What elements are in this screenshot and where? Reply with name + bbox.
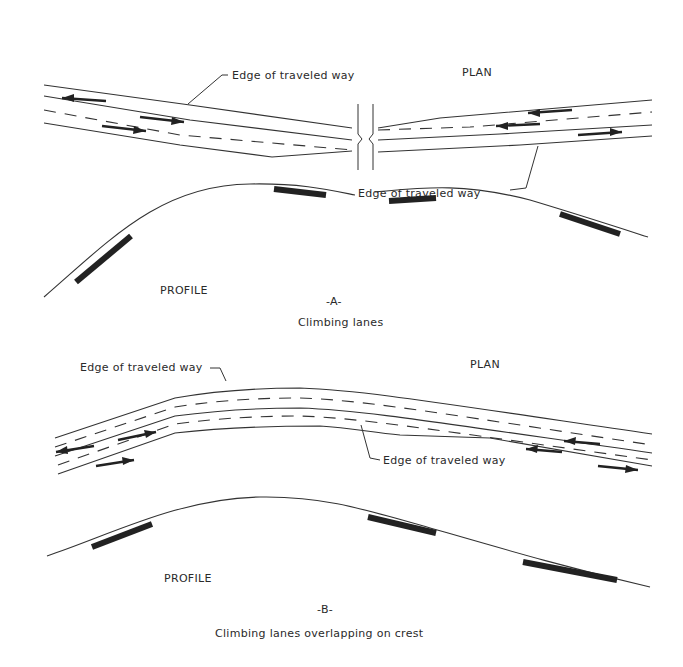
climbing-lanes-diagram: Edge of traveled way PLAN Edge of travel…: [0, 0, 683, 667]
leader-top-b: [210, 368, 226, 381]
edge-label-bottom-b: Edge of traveled way: [383, 454, 506, 467]
climbing-lane-hatch-b3: [523, 562, 617, 580]
edge-label-top-b: Edge of traveled way: [80, 361, 203, 374]
edge-label-top-a: Edge of traveled way: [232, 69, 355, 82]
caption-b: Climbing lanes overlapping on crest: [215, 627, 424, 640]
panel-id-a: -A-: [326, 295, 342, 308]
road-edge-top-left: [44, 85, 352, 128]
leader-top-a: [188, 75, 228, 104]
profile-curve-b: [47, 497, 650, 587]
plan-label-a: PLAN: [462, 66, 492, 79]
panel-id-b: -B-: [317, 603, 333, 616]
profile-curve-a-left: [44, 184, 355, 297]
leader-bottom-a: [510, 146, 538, 190]
plan-label-b: PLAN: [470, 358, 500, 371]
panel-a-profile: PROFILE -A- Climbing lanes: [44, 184, 648, 329]
traffic-arrows-a: [62, 94, 622, 136]
road-edge-bottom-left: [44, 123, 352, 157]
break-line-right: [369, 104, 373, 170]
caption-a: Climbing lanes: [298, 316, 383, 329]
panel-b-plan: Edge of traveled way PLAN Edge of travel…: [55, 358, 652, 474]
traffic-arrows-b: [56, 430, 638, 473]
climbing-lane-hatch-a4: [560, 214, 620, 234]
climbing-lane-hatch-a3: [389, 198, 436, 201]
climbing-lane-hatch-a1: [76, 236, 131, 282]
profile-label-b: PROFILE: [164, 572, 212, 585]
break-line-left: [358, 104, 362, 170]
profile-label-a: PROFILE: [160, 284, 208, 297]
panel-a-plan: Edge of traveled way PLAN Edge of travel…: [44, 66, 652, 200]
climbing-lane-hatch-a2: [274, 189, 326, 195]
panel-b-profile: PROFILE -B- Climbing lanes overlapping o…: [47, 497, 650, 640]
